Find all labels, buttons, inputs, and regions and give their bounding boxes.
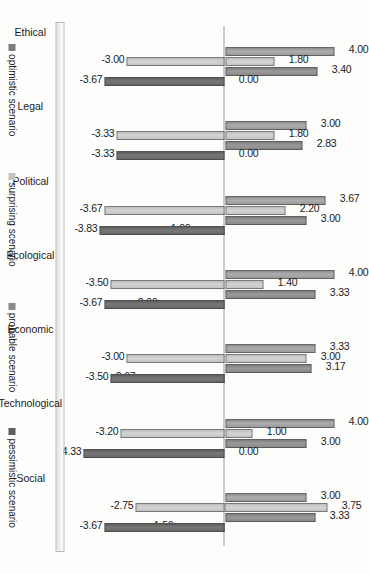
bar-group: 4.001.003.000.00-3.20-4.33	[61, 397, 361, 471]
bar	[225, 493, 307, 502]
bar	[225, 439, 307, 448]
bar	[126, 57, 224, 66]
legend-label: surprising scenario	[6, 183, 17, 267]
bar	[225, 47, 334, 56]
bar-group: 3.672.203.00-1.00-3.67-3.83	[61, 175, 361, 249]
legend-item[interactable]: probable scenario	[6, 303, 17, 393]
bar-value-label: -3.20	[95, 427, 118, 436]
bar-value-label: 3.00	[321, 437, 341, 446]
bar-group: 4.001.403.33-2.00-3.50-3.67	[61, 249, 361, 323]
bar-value-label: 4.00	[348, 45, 368, 54]
legend-swatch-icon	[8, 428, 15, 435]
bar	[105, 77, 225, 86]
legend-swatch-icon	[8, 44, 15, 51]
bar	[225, 141, 302, 150]
bar	[105, 300, 225, 309]
bar	[116, 131, 225, 140]
bar	[120, 429, 225, 438]
bar	[225, 429, 252, 438]
bar	[225, 344, 316, 353]
legend-swatch-icon	[8, 173, 15, 180]
bar-value-label: 1.40	[277, 278, 297, 287]
bar	[225, 131, 274, 140]
bar-group: 3.333.003.17-2.67-3.00-3.50	[61, 323, 361, 397]
bar-value-label: 3.00	[321, 119, 341, 128]
bar-value-label: 4.00	[348, 268, 368, 277]
plot-area: 4.001.803.400.00-3.00-3.673.001.802.830.…	[61, 26, 361, 546]
bar-groups: 4.001.803.400.00-3.00-3.673.001.802.830.…	[61, 26, 361, 546]
bar-value-label: -2.75	[110, 501, 133, 510]
legend-label: probable scenario	[6, 313, 17, 393]
category-axis-line	[55, 22, 64, 552]
bar	[126, 354, 224, 363]
bar-value-label: 3.17	[325, 362, 345, 371]
bar-value-label: -3.33	[91, 149, 114, 158]
bar-value-label: 3.33	[330, 511, 350, 520]
bar	[225, 364, 312, 373]
bar	[105, 206, 225, 215]
bar-value-label: 0.00	[239, 447, 259, 456]
bar	[116, 151, 225, 160]
bar-value-label: 3.67	[339, 194, 359, 203]
bar	[225, 206, 285, 215]
bar	[225, 57, 274, 66]
bar-value-label: 0.00	[239, 75, 259, 84]
chart-canvas: 4.001.803.400.00-3.00-3.673.001.802.830.…	[0, 0, 369, 574]
bar-value-label: -3.67	[80, 75, 103, 84]
bar-value-label: -3.33	[91, 129, 114, 138]
bar-value-label: -3.00	[101, 55, 124, 64]
bar	[110, 374, 224, 383]
bar	[110, 280, 224, 289]
bar-group: 3.003.753.33-1.50-2.75-3.67	[61, 472, 361, 546]
bar	[225, 513, 316, 522]
bar	[225, 503, 327, 512]
bar-value-label: -3.83	[74, 224, 97, 233]
legend-swatch-icon	[8, 303, 15, 310]
bar-value-label: 2.83	[316, 139, 336, 148]
legend-item[interactable]: pessimistic scenario	[6, 428, 17, 527]
bar	[99, 226, 224, 235]
bar-group: 4.001.803.400.00-3.00-3.67	[61, 26, 361, 100]
bar-value-label: -3.50	[85, 278, 108, 287]
legend-label: optimistic scenario	[6, 54, 17, 136]
bar-value-label: 3.40	[332, 65, 352, 74]
bar	[225, 290, 316, 299]
bar	[225, 216, 307, 225]
bar-value-label: 4.00	[348, 417, 368, 426]
bar-value-label: -3.67	[80, 204, 103, 213]
bar-value-label: 1.80	[288, 55, 308, 64]
bar	[105, 523, 225, 532]
bar-value-label: 3.00	[321, 491, 341, 500]
bar-value-label: -3.00	[101, 352, 124, 361]
bar-value-label: 3.33	[330, 288, 350, 297]
bar-value-label: 1.80	[288, 129, 308, 138]
legend-item[interactable]: optimistic scenario	[6, 44, 17, 136]
bar-value-label: -3.67	[80, 521, 103, 530]
chart-legend: optimistic scenariosurprising scenariopr…	[6, 26, 17, 546]
legend-label: pessimistic scenario	[6, 438, 17, 527]
bar-value-label: 0.00	[239, 149, 259, 158]
bar	[135, 503, 225, 512]
bar-value-label: 2.20	[299, 204, 319, 213]
bar-value-label: 3.00	[321, 214, 341, 223]
bar-group: 3.001.802.830.00-3.33-3.33	[61, 100, 361, 174]
bar	[83, 449, 225, 458]
bar-value-label: -3.50	[85, 372, 108, 381]
bar-value-label: 1.00	[266, 427, 286, 436]
bar	[225, 280, 263, 289]
bar	[225, 354, 307, 363]
bar-value-label: -3.67	[80, 298, 103, 307]
legend-item[interactable]: surprising scenario	[6, 173, 17, 267]
